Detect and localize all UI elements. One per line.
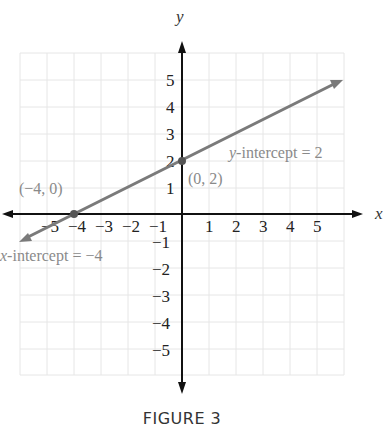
svg-text:2: 2 (232, 217, 241, 236)
x-intercept-point (70, 210, 78, 218)
svg-text:1: 1 (205, 217, 214, 236)
y-axis-label: y (174, 7, 184, 26)
y-intercept-point-label: (0, 2) (188, 170, 223, 188)
svg-text:−4: −4 (152, 314, 171, 333)
svg-text:−3: −3 (152, 287, 170, 306)
y-intercept-annotation: y-intercept = 2 (227, 144, 322, 162)
svg-text:3: 3 (166, 125, 175, 144)
x-intercept-annotation: x-intercept = −4 (0, 247, 102, 265)
arrow-up-icon (178, 41, 186, 53)
figure-caption: FIGURE 3 (0, 409, 364, 428)
svg-text:1: 1 (166, 179, 175, 198)
arrow-right-icon (352, 210, 363, 218)
svg-text:−1: −1 (152, 233, 170, 252)
svg-text:3: 3 (259, 217, 268, 236)
svg-text:−4: −4 (68, 217, 87, 236)
x-intercept-point-label: (−4, 0) (19, 180, 63, 198)
svg-text:4: 4 (286, 217, 295, 236)
y-intercept-point (178, 157, 186, 165)
y-axis (178, 41, 186, 394)
x-axis-label: x (374, 204, 383, 223)
svg-text:−5: −5 (152, 341, 170, 360)
coordinate-plane: x y −5 −4 −3 −2 −1 1 2 3 4 5 5 4 3 2 1 −… (0, 0, 387, 435)
arrow-down-icon (178, 382, 186, 394)
svg-text:−2: −2 (152, 260, 170, 279)
svg-text:5: 5 (166, 71, 175, 90)
svg-text:−2: −2 (122, 217, 140, 236)
svg-text:5: 5 (313, 217, 322, 236)
svg-text:4: 4 (166, 98, 175, 117)
svg-text:−3: −3 (95, 217, 113, 236)
arrow-left-icon (2, 210, 13, 218)
